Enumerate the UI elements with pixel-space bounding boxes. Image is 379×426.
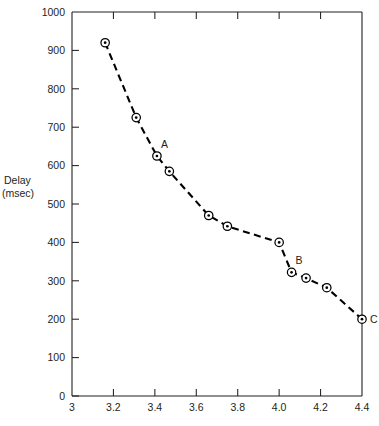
data-point-center-dot [305, 277, 308, 280]
y-tick-label: 100 [47, 351, 65, 363]
data-point-center-dot [168, 170, 171, 173]
x-tick-label: 4.4 [355, 401, 370, 413]
data-point-label-a: A [161, 138, 168, 150]
data-point-center-dot [278, 241, 281, 244]
data-point-center-dot [226, 225, 229, 228]
data-point-center-dot [361, 318, 364, 321]
y-tick-label: 700 [47, 121, 65, 133]
y-axis-title: Delay (msec) [2, 174, 34, 199]
data-point-label-c: C [370, 313, 378, 325]
x-tick-label: 3.2 [106, 401, 121, 413]
data-series-line [105, 43, 362, 319]
y-tick-label: 500 [47, 198, 65, 210]
data-point-label-b: B [296, 254, 303, 266]
y-tick-label: 0 [59, 390, 65, 402]
data-point-center-dot [325, 286, 328, 289]
data-point-center-dot [104, 41, 107, 44]
y-tick-label: 800 [47, 83, 65, 95]
y-axis-ticks: 01002003004005006007008009001000 [42, 6, 79, 402]
x-tick-label: 3.6 [189, 401, 204, 413]
x-tick-label: 4.0 [272, 401, 287, 413]
y-tick-label: 900 [47, 44, 65, 56]
y-tick-label: 600 [47, 159, 65, 171]
x-tick-label: 3.4 [148, 401, 163, 413]
data-point-center-dot [156, 155, 159, 158]
y-tick-label: 200 [47, 313, 65, 325]
y-tick-label: 1000 [42, 6, 66, 18]
chart-figure: Delay (msec) 010020030040050060070080090… [0, 0, 379, 426]
y-tick-label: 400 [47, 236, 65, 248]
x-tick-label: 4.2 [313, 401, 328, 413]
x-tick-label: 3.8 [230, 401, 245, 413]
data-point-markers [101, 39, 366, 324]
data-point-center-dot [207, 214, 210, 217]
line-chart-plot: Delay (msec) 010020030040050060070080090… [0, 0, 379, 426]
y-axis-title-line-1: Delay [4, 174, 32, 186]
x-tick-label: 3 [69, 401, 75, 413]
data-point-center-dot [135, 116, 138, 119]
data-point-center-dot [290, 271, 293, 274]
data-point-annotations: ABC [161, 138, 378, 325]
y-axis-title-line-2: (msec) [2, 187, 34, 199]
x-axis-ticks: 33.23.43.63.84.04.24.4 [69, 12, 369, 413]
y-tick-label: 300 [47, 275, 65, 287]
